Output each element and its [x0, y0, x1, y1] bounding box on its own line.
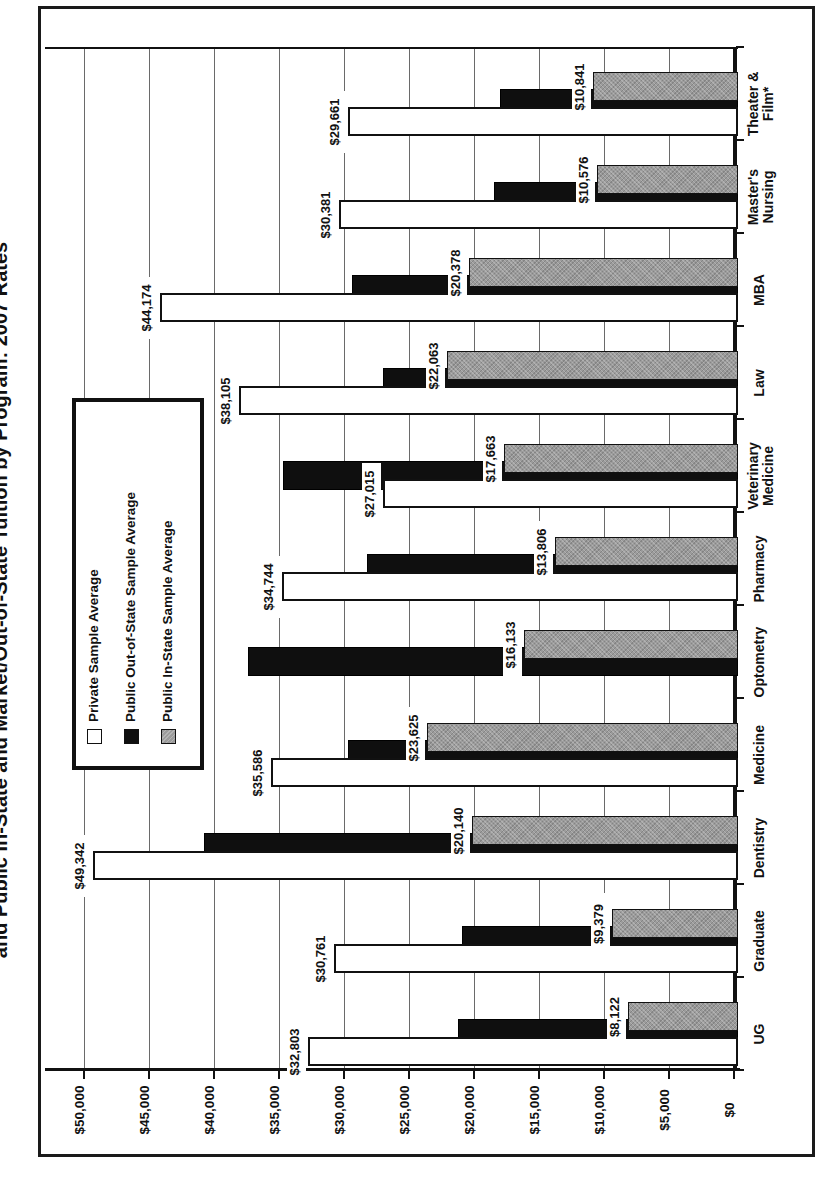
- value-tick-35000: [278, 1071, 280, 1079]
- plot-top-border: [45, 47, 738, 49]
- bar-private-theater-film-: [348, 107, 738, 136]
- value-tick-45000: [148, 1071, 150, 1079]
- value-tick-label-35000: $35,000: [268, 1080, 287, 1140]
- category-label-master-s-nursing-line: Nursing: [761, 154, 776, 240]
- value-tick-label-50000: $50,000: [73, 1080, 92, 1140]
- bar-instate-pharmacy: [555, 537, 738, 566]
- category-label-pharmacy: Pharmacy: [752, 526, 770, 612]
- category-tick-10: [736, 976, 744, 978]
- legend-label: Public Out-of-State Sample Average: [124, 492, 139, 722]
- value-label-private-8: $44,174: [139, 277, 158, 339]
- value-label-instate-8: $20,378: [448, 242, 467, 304]
- value-label-instate-7: $22,063: [426, 335, 445, 397]
- legend-swatch-in-state: [161, 729, 176, 744]
- category-tick-9: [736, 883, 744, 885]
- category-label-veterinary-medicine-line: Medicine: [761, 433, 776, 519]
- value-label-instate-0: $8,122: [607, 986, 626, 1048]
- bar-private-medicine: [271, 758, 738, 787]
- bar-private-graduate: [334, 944, 738, 973]
- category-label-dentistry-line: Dentistry: [752, 805, 767, 891]
- value-tick-10000: [603, 1071, 605, 1079]
- value-tick-15000: [538, 1071, 540, 1079]
- category-label-theater-film--line: Theater &: [746, 61, 761, 147]
- value-label-instate-4: $16,133: [503, 614, 522, 676]
- value-label-private-10: $29,661: [327, 91, 346, 153]
- category-label-law: Law: [752, 340, 770, 426]
- category-label-theater-film-: Theater &Film*: [746, 61, 779, 147]
- legend-swatch-out-of-state: [124, 729, 139, 744]
- value-label-private-6: $27,015: [362, 463, 381, 525]
- value-label-private-7: $38,105: [218, 370, 237, 432]
- value-tick-5000: [668, 1071, 670, 1079]
- category-label-master-s-nursing-line: Master's: [746, 154, 761, 240]
- value-label-instate-6: $17,663: [483, 428, 502, 490]
- value-label-private-9: $30,381: [318, 184, 337, 246]
- category-tick-0: [736, 46, 744, 48]
- bar-instate-dentistry: [472, 816, 738, 845]
- category-label-theater-film--line: Film*: [761, 61, 776, 147]
- value-tick-label-25000: $25,000: [398, 1080, 417, 1140]
- value-label-instate-3: $23,625: [406, 707, 425, 769]
- bar-private-pharmacy: [282, 572, 738, 601]
- category-label-medicine: Medicine: [752, 712, 770, 798]
- legend-entry-0: Private Sample Average: [82, 406, 106, 744]
- bar-instate-ug: [628, 1002, 738, 1031]
- value-label-instate-10: $10,841: [572, 56, 591, 118]
- bar-instate-law: [447, 351, 738, 380]
- category-label-optometry-line: Optometry: [752, 619, 767, 705]
- value-tick-0: [733, 1071, 735, 1079]
- legend-label: Private Sample Average: [87, 569, 102, 722]
- bar-private-dentistry: [93, 851, 738, 880]
- value-tick-label-40000: $40,000: [203, 1080, 222, 1140]
- value-label-instate-2: $20,140: [451, 800, 470, 862]
- value-label-private-0: $32,803: [287, 1021, 306, 1083]
- bar-instate-veterinary-medicine: [504, 444, 738, 473]
- value-label-instate-9: $10,576: [576, 149, 595, 211]
- value-tick-label-0: $0: [723, 1080, 742, 1140]
- category-label-graduate: Graduate: [752, 898, 770, 984]
- category-label-ug-line: UG: [752, 991, 767, 1077]
- bar-instate-master-s-nursing: [597, 165, 738, 194]
- category-label-medicine-line: Medicine: [752, 712, 767, 798]
- category-tick-1: [736, 139, 744, 141]
- category-tick-4: [736, 418, 744, 420]
- bar-private-master-s-nursing: [339, 200, 738, 229]
- bar-instate-medicine: [427, 723, 738, 752]
- scanned-page: and Public In-State and Market/Out-of-St…: [0, 0, 817, 1204]
- category-label-optometry: Optometry: [752, 619, 770, 705]
- chart-title: and Public In-State and Market/Out-of-St…: [0, 125, 10, 1075]
- legend-swatch-private: [87, 729, 102, 744]
- value-tick-label-5000: $5,000: [658, 1080, 677, 1140]
- gridline-40000: [214, 47, 215, 1070]
- category-tick-11: [736, 1069, 744, 1071]
- category-label-veterinary-medicine-line: Veterinary: [746, 433, 761, 519]
- bar-private-law: [239, 386, 738, 415]
- category-tick-5: [736, 511, 744, 513]
- category-label-pharmacy-line: Pharmacy: [752, 526, 767, 612]
- legend-entry-2: Public In-State Sample Average: [156, 406, 180, 744]
- value-tick-label-20000: $20,000: [463, 1080, 482, 1140]
- category-label-law-line: Law: [752, 340, 767, 426]
- bar-instate-optometry: [524, 630, 738, 659]
- value-tick-label-15000: $15,000: [528, 1080, 547, 1140]
- legend-label: Public In-State Sample Average: [161, 520, 176, 722]
- category-label-mba: MBA: [752, 247, 770, 333]
- value-label-private-3: $35,586: [250, 742, 269, 804]
- category-tick-8: [736, 790, 744, 792]
- value-label-instate-1: $9,379: [591, 893, 610, 955]
- value-tick-label-30000: $30,000: [333, 1080, 352, 1140]
- value-tick-20000: [473, 1071, 475, 1079]
- category-tick-6: [736, 604, 744, 606]
- legend-entry-1: Public Out-of-State Sample Average: [119, 406, 143, 744]
- value-tick-50000: [83, 1071, 85, 1079]
- bar-private-ug: [308, 1037, 738, 1066]
- value-tick-40000: [213, 1071, 215, 1079]
- bar-instate-graduate: [612, 909, 738, 938]
- category-tick-2: [736, 232, 744, 234]
- category-label-ug: UG: [752, 991, 770, 1077]
- category-label-mba-line: MBA: [752, 247, 767, 333]
- category-label-graduate-line: Graduate: [752, 898, 767, 984]
- bar-instate-mba: [469, 258, 738, 287]
- value-label-private-1: $30,761: [313, 928, 332, 990]
- value-label-private-5: $34,744: [261, 556, 280, 618]
